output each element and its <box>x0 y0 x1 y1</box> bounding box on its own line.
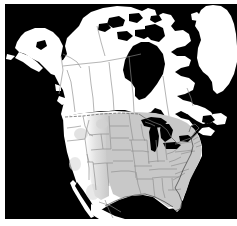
figure-top-margin <box>0 0 237 4</box>
map-frame <box>5 4 237 219</box>
shaded-blob-west-c <box>86 184 100 200</box>
figure-left-margin <box>0 0 5 226</box>
shaded-blob-west-d <box>96 119 108 129</box>
figure-bottom-margin <box>0 219 237 226</box>
shaded-blob-west-b <box>69 157 81 171</box>
north-america-map <box>5 4 237 219</box>
range-map-figure <box>0 0 237 226</box>
